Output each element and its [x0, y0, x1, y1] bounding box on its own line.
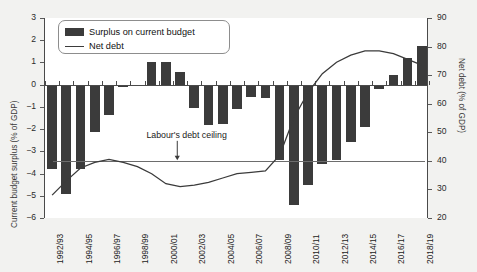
left-tick-label: 0	[0, 79, 36, 89]
left-tick-label: −1	[0, 101, 36, 111]
legend-bar-swatch-icon	[65, 28, 84, 36]
right-tick-mark	[428, 218, 432, 219]
chart-legend: Surplus on current budget Net debt	[58, 20, 230, 54]
x-tick-label: 2006/07	[254, 234, 264, 264]
left-tick-label: 3	[0, 12, 36, 22]
legend-item-netdebt: Net debt	[65, 39, 223, 53]
x-tick-label: 1994/95	[84, 234, 94, 264]
legend-label-netdebt: Net debt	[89, 41, 124, 51]
right-tick-label: 30	[437, 183, 447, 193]
right-axis-title: Net debt (% of GDP)	[457, 58, 466, 133]
x-tick-label: 2004/05	[226, 234, 236, 264]
left-axis-title: Current budget surplus (% of GDP)	[10, 101, 19, 228]
left-tick-label: −4	[0, 168, 36, 178]
left-tick-label: 1	[0, 56, 36, 66]
x-tick-label: 2014/15	[368, 234, 378, 264]
legend-item-surplus: Surplus on current budget	[65, 25, 223, 39]
x-tick-label: 1992/93	[55, 234, 65, 264]
right-tick-label: 90	[437, 12, 447, 22]
arrow-head-icon	[175, 156, 180, 161]
right-tick-label: 70	[437, 69, 447, 79]
legend-label-surplus: Surplus on current budget	[89, 27, 195, 37]
legend-line-swatch-icon	[65, 46, 84, 47]
right-tick-label: 40	[437, 155, 447, 165]
right-tick-label: 50	[437, 126, 447, 136]
x-tick-label: 1996/97	[112, 234, 122, 264]
x-tick-label: 1998/99	[140, 234, 150, 264]
left-tick-label: −6	[0, 212, 36, 222]
left-tick-label: −3	[0, 145, 36, 155]
x-tick-label: 2012/13	[340, 234, 350, 264]
right-tick-label: 80	[437, 41, 447, 51]
x-tick-label: 2008/09	[283, 234, 293, 264]
left-tick-label: 2	[0, 34, 36, 44]
left-tick-mark	[40, 218, 44, 219]
x-tick-label: 2002/03	[197, 234, 207, 264]
x-tick-label: 2018/19	[425, 234, 435, 264]
debt-ceiling-annotation: Labour's debt ceiling	[146, 130, 226, 140]
right-tick-label: 20	[437, 212, 447, 222]
x-tick-label: 2010/11	[311, 234, 321, 264]
x-tick-label: 2000/01	[169, 234, 179, 264]
chart-container: Current budget surplus (% of GDP) Net de…	[0, 0, 477, 272]
left-tick-label: −5	[0, 190, 36, 200]
x-tick-mark	[429, 81, 430, 85]
x-tick-label: 2016/17	[396, 234, 406, 264]
left-tick-label: −2	[0, 123, 36, 133]
right-tick-label: 60	[437, 98, 447, 108]
